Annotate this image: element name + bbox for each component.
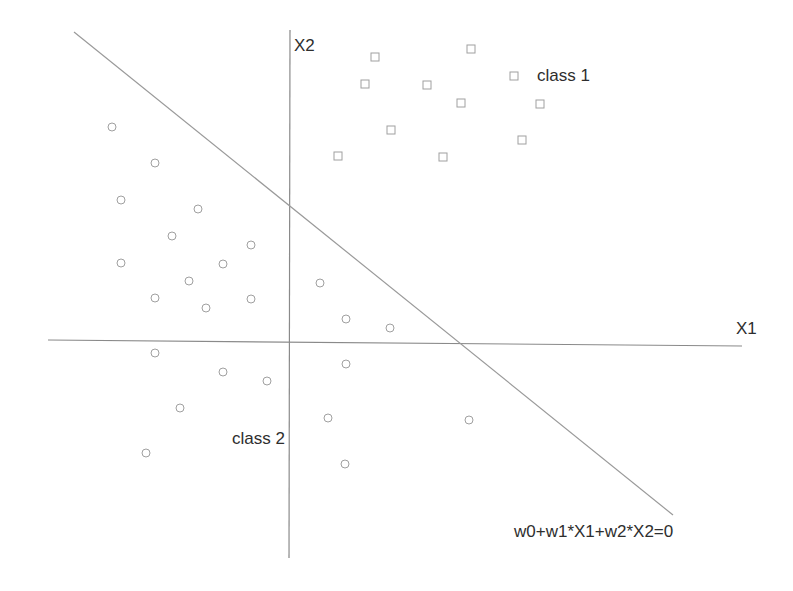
class2-markers — [108, 123, 473, 468]
class2-circle-marker — [202, 304, 210, 312]
x1-axis-line — [48, 340, 742, 346]
class2-circle-marker — [151, 159, 159, 167]
plot-area — [0, 0, 793, 591]
class2-circle-marker — [151, 294, 159, 302]
class2-circle-marker — [465, 416, 473, 424]
class1-square-marker — [518, 136, 526, 144]
class2-circle-marker — [142, 449, 150, 457]
class2-circle-marker — [247, 295, 255, 303]
class2-circle-marker — [342, 360, 350, 368]
class2-circle-marker — [117, 196, 125, 204]
class2-label: class 2 — [232, 430, 285, 447]
class2-circle-marker — [342, 315, 350, 323]
boundary-equation-label: w0+w1*X1+w2*X2=0 — [514, 523, 673, 540]
class2-circle-marker — [341, 460, 349, 468]
class1-square-marker — [371, 53, 379, 61]
class1-square-marker — [387, 126, 395, 134]
class2-circle-marker — [263, 377, 271, 385]
class1-square-marker — [467, 45, 475, 53]
class2-circle-marker — [108, 123, 116, 131]
class2-circle-marker — [316, 279, 324, 287]
class2-circle-marker — [185, 277, 193, 285]
class1-square-marker — [439, 153, 447, 161]
x2-axis-label: X2 — [294, 37, 315, 54]
x2-axis-line — [289, 30, 290, 558]
class2-circle-marker — [247, 241, 255, 249]
class2-circle-marker — [386, 324, 394, 332]
x1-axis-label: X1 — [736, 320, 757, 337]
class2-circle-marker — [219, 368, 227, 376]
class1-square-marker — [457, 99, 465, 107]
linear-classifier-diagram: X2 X1 class 1 class 2 w0+w1*X1+w2*X2=0 — [0, 0, 793, 591]
class2-circle-marker — [324, 414, 332, 422]
class1-markers — [334, 45, 544, 161]
decision-boundary-line — [74, 32, 673, 515]
class2-circle-marker — [176, 404, 184, 412]
class2-circle-marker — [194, 205, 202, 213]
class1-square-marker — [361, 80, 369, 88]
class1-label: class 1 — [537, 67, 590, 84]
class2-circle-marker — [151, 349, 159, 357]
class2-circle-marker — [168, 232, 176, 240]
class1-square-marker — [536, 100, 544, 108]
class1-square-marker — [423, 81, 431, 89]
class1-square-marker — [510, 72, 518, 80]
class1-square-marker — [334, 152, 342, 160]
class2-circle-marker — [219, 260, 227, 268]
class2-circle-marker — [117, 259, 125, 267]
